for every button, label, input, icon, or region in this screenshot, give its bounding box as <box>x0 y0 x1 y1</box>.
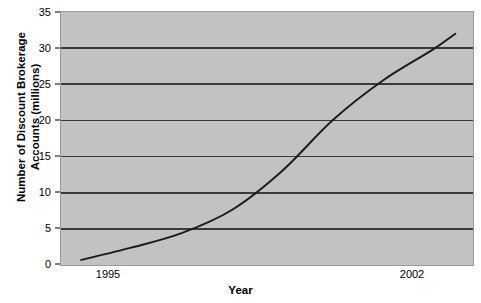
x-axis-title: Year <box>0 284 481 296</box>
x-axis-ticks: 1995 2002 <box>0 0 481 303</box>
x-tick-label-2002: 2002 <box>400 268 424 280</box>
x-tick-label-1995: 1995 <box>96 268 120 280</box>
chart-figure: Number of Discount Brokerage Accounts (m… <box>0 0 481 303</box>
